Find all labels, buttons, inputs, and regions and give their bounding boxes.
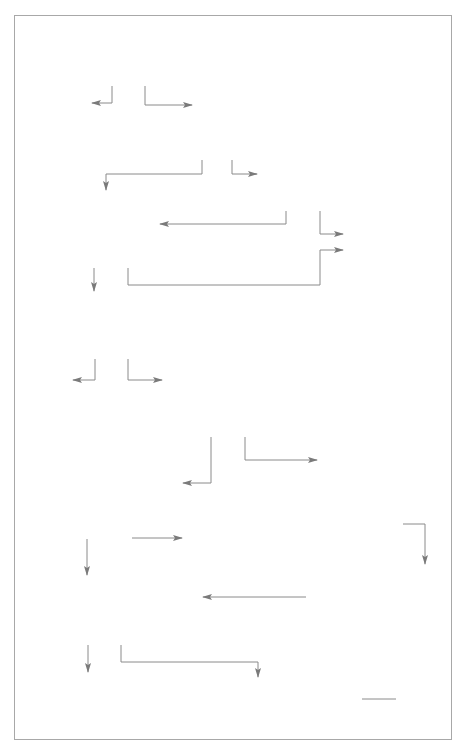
diagram-frame — [14, 15, 452, 740]
